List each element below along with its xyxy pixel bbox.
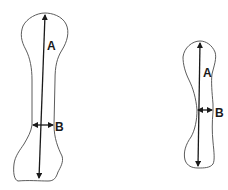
- large-bone-label-a: A: [47, 39, 56, 53]
- small-bone-label-a: A: [203, 66, 212, 80]
- small-bone-figure: A B: [183, 41, 224, 168]
- small-bone-length-arrow-a: [198, 43, 200, 166]
- small-bone-label-b: B: [215, 106, 224, 120]
- large-bone-length-arrow-a: [39, 15, 45, 178]
- large-bone-figure: A B: [14, 13, 68, 181]
- large-bone-label-b: B: [55, 120, 64, 134]
- large-bone-outline: [14, 13, 68, 181]
- diagram-canvas: A B A B: [0, 0, 228, 190]
